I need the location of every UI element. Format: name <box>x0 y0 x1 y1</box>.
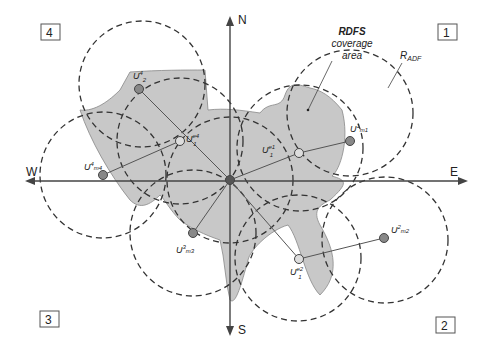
label-u4-m4: U4m4 <box>84 161 103 172</box>
rdfs-pointer-dot <box>307 109 310 112</box>
node-center <box>226 176 235 185</box>
south-label: S <box>238 323 246 337</box>
east-arrow-icon <box>458 177 468 185</box>
node-u4-2 <box>135 85 144 94</box>
quadrant-1-box: 1 <box>438 24 457 40</box>
rdfs-coverage-diagram: N S W E 1 2 3 4 RDFS coverage area RADF … <box>0 0 480 347</box>
quadrant-2-label: 2 <box>441 319 448 333</box>
node-u3-m3 <box>189 229 198 238</box>
node-ue1-1 <box>295 149 304 158</box>
quadrant-4-box: 4 <box>41 24 60 40</box>
rdfs-label-line2: coverage <box>331 38 373 49</box>
north-label: N <box>238 13 247 27</box>
east-label: E <box>450 165 458 179</box>
node-ue4-1 <box>176 137 185 146</box>
label-ue2-1: Ue21 <box>290 266 304 280</box>
label-u2-m2: U2m2 <box>391 224 410 235</box>
quadrant-1-label: 1 <box>443 26 450 40</box>
label-u3-m3: U3m3 <box>176 244 195 255</box>
rdfs-label-line1: RDFS <box>338 26 366 37</box>
node-u2-m2 <box>380 234 389 243</box>
quadrant-2-box: 2 <box>436 317 455 333</box>
rdfs-label-line3: area <box>342 50 362 61</box>
rdfs-coverage-area <box>80 70 345 301</box>
radf-label: RADF <box>400 50 422 62</box>
node-ue2-1 <box>295 255 304 264</box>
label-u1-m1: U1m1 <box>350 123 368 134</box>
node-u1-m1 <box>346 137 355 146</box>
quadrant-3-box: 3 <box>40 311 59 327</box>
west-label: W <box>26 165 38 179</box>
quadrant-4-label: 4 <box>46 26 53 40</box>
north-arrow-icon <box>226 16 234 26</box>
node-u4-m4 <box>99 171 108 180</box>
quadrant-3-label: 3 <box>45 313 52 327</box>
south-arrow-icon <box>226 326 234 336</box>
